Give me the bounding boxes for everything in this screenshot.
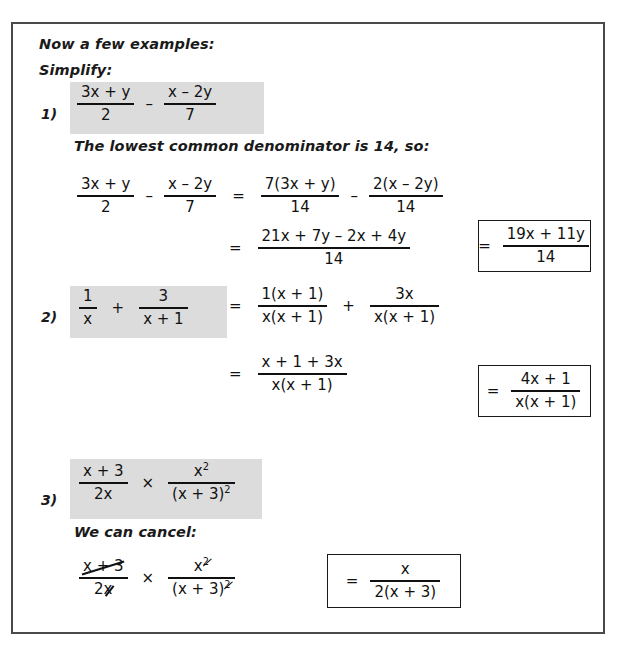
- example-3-marker: 3): [41, 492, 57, 508]
- numerator-power: x2: [190, 463, 213, 480]
- operator: ×: [130, 474, 167, 492]
- intro-line-1: Now a few examples:: [39, 36, 215, 52]
- worksheet-page: Now a few examples: Simplify: 1) 3x + y …: [11, 22, 605, 634]
- example-1-answer: = 19x + 11y 14: [478, 226, 591, 266]
- fraction: 19x + 11y 14: [501, 226, 591, 266]
- example-2-answer-box: = 4x + 1 x(x + 1): [478, 365, 591, 417]
- example-3-problem: x + 3 2x × x2 (x + 3)2: [77, 463, 237, 503]
- fraction-bar: [139, 307, 188, 309]
- fraction-bar: [164, 195, 216, 197]
- fraction: 3x + y 2: [75, 84, 136, 124]
- operator: –: [136, 95, 162, 113]
- equals-sign: =: [346, 572, 369, 590]
- example-2-step-2: = x + 1 + 3x x(x + 1): [229, 354, 349, 394]
- example-1-note: The lowest common denominator is 14, so:: [74, 138, 430, 154]
- example-1-problem: 3x + y 2 – x – 2y 7: [75, 84, 218, 124]
- operator: ×: [130, 569, 167, 587]
- fraction: 2(x – 2y) 14: [367, 176, 445, 216]
- fraction-bar: [370, 305, 439, 307]
- fraction-bar: [511, 390, 580, 392]
- fraction: 7(3x + y) 14: [259, 176, 342, 216]
- fraction: x 2(x + 3): [368, 561, 442, 601]
- equals-sign: =: [487, 382, 510, 400]
- example-1-step-2: = 21x + 7y – 2x + 4y 14: [229, 228, 412, 268]
- example-1-step-1: 3x + y 2 – x – 2y 7 = 7(3x + y) 14 – 2(x…: [75, 176, 445, 216]
- denominator-cancelled: 2x: [90, 581, 116, 598]
- fraction-bar: [258, 305, 328, 307]
- example-3-cancel-step: x + 3 2x × x2 (x + 3)2: [77, 558, 237, 598]
- fraction-bar: [370, 580, 440, 582]
- equals-sign: =: [218, 187, 259, 205]
- equals-sign: =: [229, 365, 256, 383]
- operator: +: [99, 299, 138, 317]
- example-3-answer-box: = x 2(x + 3): [327, 554, 461, 608]
- fraction: 3x x(x + 1): [368, 286, 441, 326]
- fraction: 1 x: [77, 288, 99, 328]
- fraction: x + 3 2x: [77, 463, 130, 503]
- fraction-bar: [79, 307, 97, 309]
- fraction-bar: [79, 482, 128, 484]
- fraction: x – 2y 7: [162, 176, 218, 216]
- fraction-bar: [258, 247, 410, 249]
- fraction: 3x + y 2: [75, 176, 136, 216]
- fraction-bar: [164, 103, 216, 105]
- fraction: x2 (x + 3)2: [166, 558, 237, 598]
- fraction: 1(x + 1) x(x + 1): [256, 286, 330, 326]
- example-2-step-1: = 1(x + 1) x(x + 1) + 3x x(x + 1): [229, 286, 441, 326]
- example-1-answer-box: = 19x + 11y 14: [478, 220, 591, 272]
- example-3-answer: = x 2(x + 3): [346, 561, 442, 601]
- fraction: x2 (x + 3)2: [166, 463, 237, 503]
- fraction: 21x + 7y – 2x + 4y 14: [256, 228, 412, 268]
- denominator-power-cancelled: (x + 3)2: [168, 581, 235, 598]
- operator: –: [341, 187, 367, 205]
- denominator-power: (x + 3)2: [168, 486, 235, 503]
- numerator-power-cancelled: x2: [190, 558, 213, 575]
- equals-sign: =: [229, 297, 256, 315]
- fraction-bar: [258, 373, 347, 375]
- numerator-cancelled: x + 3: [79, 558, 128, 575]
- fraction-bar: [503, 245, 589, 247]
- example-1-marker: 1): [41, 106, 57, 122]
- example-3-note: We can cancel:: [74, 524, 197, 540]
- intro-line-2: Simplify:: [39, 62, 112, 78]
- operator: –: [136, 187, 162, 205]
- fraction: x – 2y 7: [162, 84, 218, 124]
- worksheet-content: Now a few examples: Simplify: 1) 3x + y …: [13, 24, 603, 632]
- fraction-bar: [261, 195, 340, 197]
- example-2-answer: = 4x + 1 x(x + 1): [487, 371, 583, 411]
- fraction: 4x + 1 x(x + 1): [509, 371, 582, 411]
- fraction-bar: [79, 577, 128, 579]
- equals-sign: =: [478, 237, 501, 255]
- equals-sign: =: [229, 239, 256, 257]
- example-2-problem: 1 x + 3 x + 1: [77, 288, 190, 328]
- fraction-bar: [77, 195, 134, 197]
- operator: +: [329, 297, 368, 315]
- fraction-bar: [77, 103, 134, 105]
- fraction-bar: [369, 195, 443, 197]
- fraction: 3 x + 1: [137, 288, 190, 328]
- fraction: x + 3 2x: [77, 558, 130, 598]
- fraction: x + 1 + 3x x(x + 1): [256, 354, 349, 394]
- example-2-marker: 2): [41, 309, 57, 325]
